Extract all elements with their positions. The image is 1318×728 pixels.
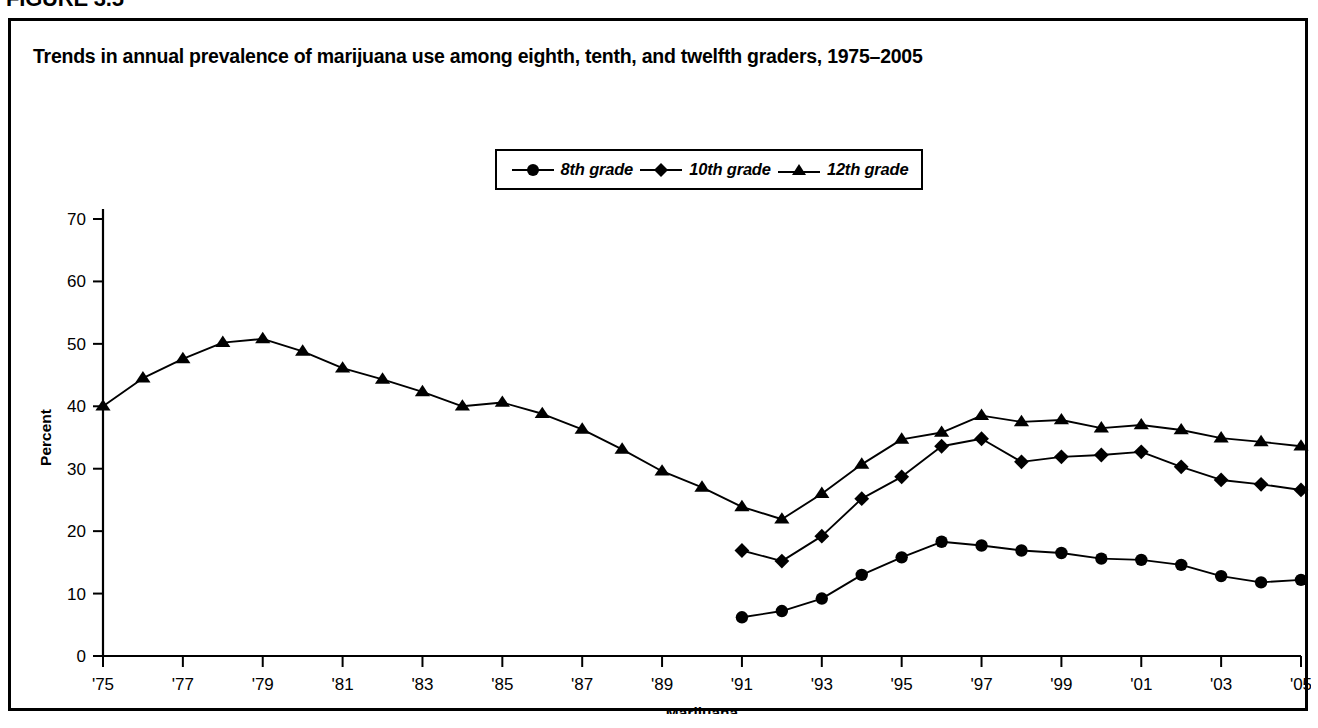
data-point-diamond <box>1214 473 1229 488</box>
y-tick-label: 40 <box>67 397 86 416</box>
x-tick-label: '01 <box>1130 675 1152 694</box>
figure-panel: Trends in annual prevalence of marijuana… <box>8 18 1308 711</box>
x-tick-label: '97 <box>970 675 992 694</box>
data-point-triangle <box>654 464 669 475</box>
data-point-diamond <box>1014 454 1029 469</box>
y-tick-label: 70 <box>67 210 86 229</box>
y-tick-label: 20 <box>67 522 86 541</box>
data-point-circle <box>856 569 868 581</box>
data-point-diamond <box>1134 444 1149 459</box>
axis-layer: 010203040506070'75'77'79'81'83'85'87'89'… <box>67 209 1311 694</box>
data-point-triangle <box>255 332 270 343</box>
data-point-diamond <box>974 431 989 446</box>
data-point-diamond <box>1094 448 1109 463</box>
data-point-diamond <box>735 543 750 558</box>
data-point-triangle <box>1134 418 1149 429</box>
data-point-circle <box>1215 570 1227 582</box>
data-point-circle <box>1135 554 1147 566</box>
data-point-triangle <box>814 487 829 498</box>
x-tick-label: '03 <box>1210 675 1232 694</box>
data-point-diamond <box>774 554 789 569</box>
data-point-triangle <box>734 500 749 511</box>
data-point-circle <box>1015 544 1027 556</box>
data-point-circle <box>776 605 788 617</box>
data-point-circle <box>736 611 748 623</box>
series-line <box>103 339 1301 519</box>
x-tick-label: '75 <box>92 675 114 694</box>
data-point-triangle <box>854 457 869 468</box>
data-point-circle <box>1055 547 1067 559</box>
data-point-triangle <box>495 395 510 406</box>
series-8th-grade <box>736 536 1307 624</box>
x-tick-label: '91 <box>731 675 753 694</box>
data-point-circle <box>975 539 987 551</box>
data-point-diamond <box>894 469 909 484</box>
data-point-diamond <box>1174 459 1189 474</box>
x-tick-label: '87 <box>571 675 593 694</box>
data-point-circle <box>1095 552 1107 564</box>
y-tick-label: 0 <box>77 647 86 666</box>
data-point-circle <box>1295 574 1307 586</box>
y-tick-label: 60 <box>67 272 86 291</box>
data-point-circle <box>895 551 907 563</box>
data-point-diamond <box>1294 483 1309 498</box>
x-tick-label: '83 <box>411 675 433 694</box>
data-point-triangle <box>974 409 989 420</box>
x-tick-label: '93 <box>811 675 833 694</box>
x-tick-label: '81 <box>332 675 354 694</box>
data-point-circle <box>816 592 828 604</box>
data-point-diamond <box>1254 477 1269 492</box>
data-point-triangle <box>1054 413 1069 424</box>
x-tick-label: '77 <box>172 675 194 694</box>
y-axis-title: Percent <box>37 409 54 466</box>
figure-caption: FIGURE 3.5 <box>6 0 124 12</box>
data-point-diamond <box>1054 449 1069 464</box>
data-point-triangle <box>615 442 630 453</box>
x-axis-title: Marijuana <box>666 704 739 714</box>
y-tick-label: 50 <box>67 335 86 354</box>
data-point-circle <box>935 536 947 548</box>
series-layer <box>95 332 1308 624</box>
data-point-circle <box>1175 559 1187 571</box>
x-tick-label: '89 <box>651 675 673 694</box>
data-point-triangle <box>95 399 110 410</box>
data-point-circle <box>1255 576 1267 588</box>
series-12th-grade <box>95 332 1308 524</box>
x-tick-label: '95 <box>891 675 913 694</box>
data-point-triangle <box>135 371 150 382</box>
y-tick-label: 30 <box>67 460 86 479</box>
data-point-diamond <box>934 439 949 454</box>
x-tick-label: '05 <box>1290 675 1311 694</box>
x-tick-label: '85 <box>491 675 513 694</box>
figure-root: FIGURE 3.5 Trends in annual prevalence o… <box>0 0 1318 728</box>
x-tick-label: '79 <box>252 675 274 694</box>
line-chart-plot: 010203040506070'75'77'79'81'83'85'87'89'… <box>11 21 1311 714</box>
x-tick-label: '99 <box>1050 675 1072 694</box>
y-tick-label: 10 <box>67 585 86 604</box>
